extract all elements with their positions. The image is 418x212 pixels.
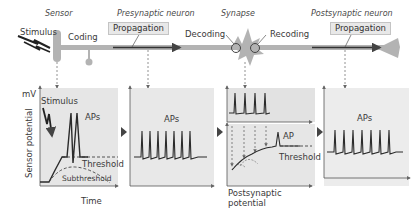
label-subthreshold: Subthreshold [62,175,112,183]
connector-lines [57,50,345,88]
flow-arrow-3-icon [317,127,323,137]
flow-arrow-2-icon [217,127,223,137]
header-synapse: Synapse [221,10,255,18]
x-axis-time: Time [81,197,102,206]
y-unit-mv: mV [22,90,36,99]
axon-terminal [380,38,400,58]
coding-node [86,59,93,66]
label-panel3-ap: AP [283,132,294,141]
caption-potential: potential [228,199,266,208]
label-panel2-aps: APs [164,115,179,124]
label-panel1-stimulus: Stimulus [41,97,78,106]
label-panel1-threshold: Threshold [82,160,124,169]
panel-postsynaptic-aps [324,86,410,186]
y-axis-sensor-potential: Sensor potential [24,108,34,178]
label-coding: Coding [68,33,98,42]
label-decoding: Decoding [185,30,225,39]
panel-presynaptic-aps [130,86,214,186]
label-panel1-aps: APs [85,113,100,122]
label-panel3-threshold: Threshold [279,153,321,162]
header-sensor: Sensor [45,10,72,18]
header-postsynaptic: Postsynaptic neuron [311,10,393,18]
label-stimulus: Stimulus [20,28,57,37]
panel-synapse [227,86,315,186]
label-propagation-post: Propagation [330,22,391,35]
label-recoding: Recoding [270,30,309,39]
header-presynaptic: Presynaptic neuron [117,10,195,18]
neural-signal-diagram: Sensor Presynaptic neuron Synapse Postsy… [0,0,418,212]
caption-postsynaptic: Postsynaptic [228,189,282,198]
label-propagation-pre: Propagation [108,22,169,35]
label-panel4-aps: APs [357,114,372,123]
flow-arrow-1-icon [121,127,127,137]
